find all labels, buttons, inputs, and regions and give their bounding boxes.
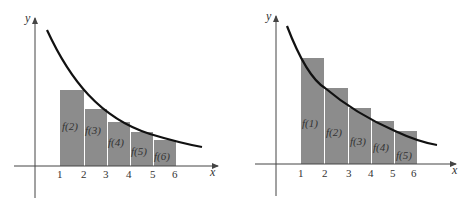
bar-label: f(5) [131,145,147,158]
bar-label: f(4) [108,136,124,149]
tick-label: 5 [390,167,396,179]
bar-label: f(3) [85,124,101,137]
right-y-label: y [265,9,272,23]
tick-label: 2 [81,168,87,180]
tick-label: 6 [411,167,417,179]
tick-label: 4 [126,168,132,180]
bar-label: f(2) [326,126,342,139]
bar-label: f(2) [62,120,78,133]
left-diagram: y x 1 2 3 4 5 6 f(2) f(3) f(4) f(5) f(6) [14,11,218,198]
bar-label: f(3) [350,135,366,148]
left-bar-2 [85,109,107,166]
tick-label: 3 [346,167,352,179]
tick-label: 1 [298,167,304,179]
right-x-label: x [451,163,458,177]
bar-label: f(5) [396,149,412,162]
left-ticks: 1 2 3 4 5 6 [57,168,178,180]
riemann-sum-figure: y x 1 2 3 4 5 6 f(2) f(3) f(4) f(5) f(6) [0,0,463,209]
bar-label: f(4) [373,141,389,154]
tick-label: 2 [322,167,328,179]
tick-label: 3 [103,168,109,180]
right-diagram: y x 1 2 3 4 5 6 f(1) f(2) f(3) f(4) f(5) [255,9,458,196]
bar-label: f(1) [302,117,318,130]
tick-label: 1 [57,168,63,180]
right-bar-1 [301,58,324,164]
tick-label: 5 [150,168,156,180]
tick-label: 6 [172,168,178,180]
bar-label: f(6) [154,150,170,163]
left-y-label: y [24,11,31,25]
tick-label: 4 [368,167,374,179]
left-x-label: x [209,165,216,179]
right-ticks: 1 2 3 4 5 6 [298,167,417,179]
